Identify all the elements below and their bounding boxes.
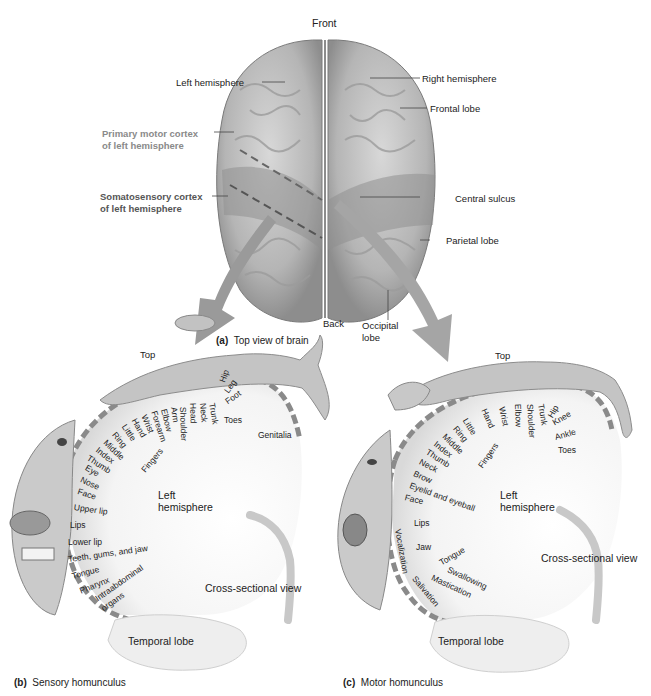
left-hemisphere-label: Left hemisphere [176,77,244,88]
right-hemisphere-label: Right hemisphere [422,73,496,84]
somatosensory-cortex-label-2: of left hemisphere [100,203,182,214]
sensory-part-lower-lip: Lower lip [68,537,102,547]
somatosensory-cortex-label: Somatosensory cortex [100,191,202,202]
caption-c-text: Motor homunculus [361,677,443,688]
sensory-temporal-lobe-label: Temporal lobe [128,636,194,647]
front-label: Front [312,18,337,29]
primary-motor-cortex-label-2: of left hemisphere [102,140,184,151]
caption-a-text: Top view of brain [234,335,309,346]
sensory-left-hemisphere-label: Left [158,490,176,501]
sensory-left-hemisphere-label-2: hemisphere [158,502,213,513]
motor-part-lips: Lips [414,518,430,528]
parietal-lobe-label: Parietal lobe [446,235,499,246]
caption-b-letter: (b) [14,677,27,688]
caption-b-text: Sensory homunculus [32,677,125,688]
motor-top-label: Top [495,350,510,361]
caption-c: (c) Motor homunculus [343,677,443,688]
caption-a: (a) Top view of brain [216,335,309,346]
motor-temporal-lobe-label: Temporal lobe [438,636,504,647]
motor-left-hemisphere-label-2: hemisphere [500,502,555,513]
sensory-part-lips: Lips [70,520,86,530]
sensory-part-genitalia: Genitalia [258,430,292,440]
frontal-lobe-label: Frontal lobe [430,103,480,114]
caption-a-letter: (a) [216,335,228,346]
sensory-part-toes: Toes [224,415,242,425]
motor-cross-section-label: Cross-sectional view [541,553,637,564]
motor-part-jaw: Jaw [416,542,431,552]
motor-left-hemisphere-label: Left [500,490,518,501]
motor-part-elbow: Elbow [513,404,524,427]
sensory-part-head: Head [188,403,199,424]
motor-part-toes: Toes [558,445,576,455]
caption-b: (b) Sensory homunculus [14,677,126,688]
back-label: Back [323,318,344,329]
primary-motor-cortex-label: Primary motor cortex [102,128,198,139]
occipital-lobe-label: Occipital [362,320,398,331]
central-sulcus-label: Central sulcus [455,193,515,204]
sensory-part-neck: Neck [198,403,210,423]
sensory-cross-section-label: Cross-sectional view [205,583,301,594]
sensory-top-label: Top [140,349,155,360]
occipital-lobe-label-2: lobe [362,332,380,343]
caption-c-letter: (c) [343,677,355,688]
